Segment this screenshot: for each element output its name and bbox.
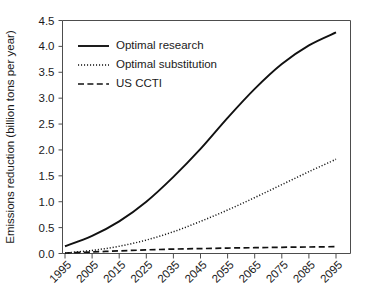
x-tick-label: 2085 [291,258,318,285]
chart-figure: 0.00.51.01.52.02.53.03.54.04.5 199520052… [0,0,366,300]
axis-frame [63,21,351,254]
y-tick-label: 2.5 [39,118,55,130]
x-tick-label: 2095 [318,258,345,285]
chart-legend: Optimal researchOptimal substitutionUS C… [78,39,217,89]
y-tick-label: 0.5 [39,222,55,234]
emissions-reduction-line-chart: 0.00.51.01.52.02.53.03.54.04.5 199520052… [0,0,366,300]
x-axis-ticks: 1995200520152025203520452055206520752085… [47,254,345,286]
y-tick-label: 3.5 [39,66,55,78]
x-tick-label: 2075 [264,258,291,285]
x-tick-label: 2035 [155,258,182,285]
y-tick-label: 1.0 [39,196,55,208]
series-line-us-ccti [65,247,336,253]
legend-label: Optimal substitution [116,58,217,70]
x-tick-label: 2005 [74,258,101,285]
x-tick-label: 2015 [101,258,128,285]
y-tick-label: 2.0 [39,144,55,156]
y-tick-label: 0.0 [39,248,55,260]
x-tick-label: 2065 [237,258,264,285]
x-tick-label: 1995 [47,258,74,285]
y-tick-label: 3.0 [39,92,55,104]
y-tick-label: 1.5 [39,170,55,182]
series-line-optimal-substitution [65,159,336,253]
y-axis-title: Emissions reduction (billion tons per ye… [4,30,16,244]
plot-border [63,21,351,254]
y-tick-label: 4.0 [39,40,55,52]
y-tick-label: 4.5 [39,15,55,27]
y-axis-ticks: 0.00.51.01.52.02.53.03.54.04.5 [39,15,63,260]
x-tick-label: 2025 [128,258,155,285]
x-tick-label: 2045 [182,258,209,285]
x-tick-label: 2055 [209,258,236,285]
legend-label: US CCTI [116,77,162,89]
legend-label: Optimal research [116,39,204,51]
